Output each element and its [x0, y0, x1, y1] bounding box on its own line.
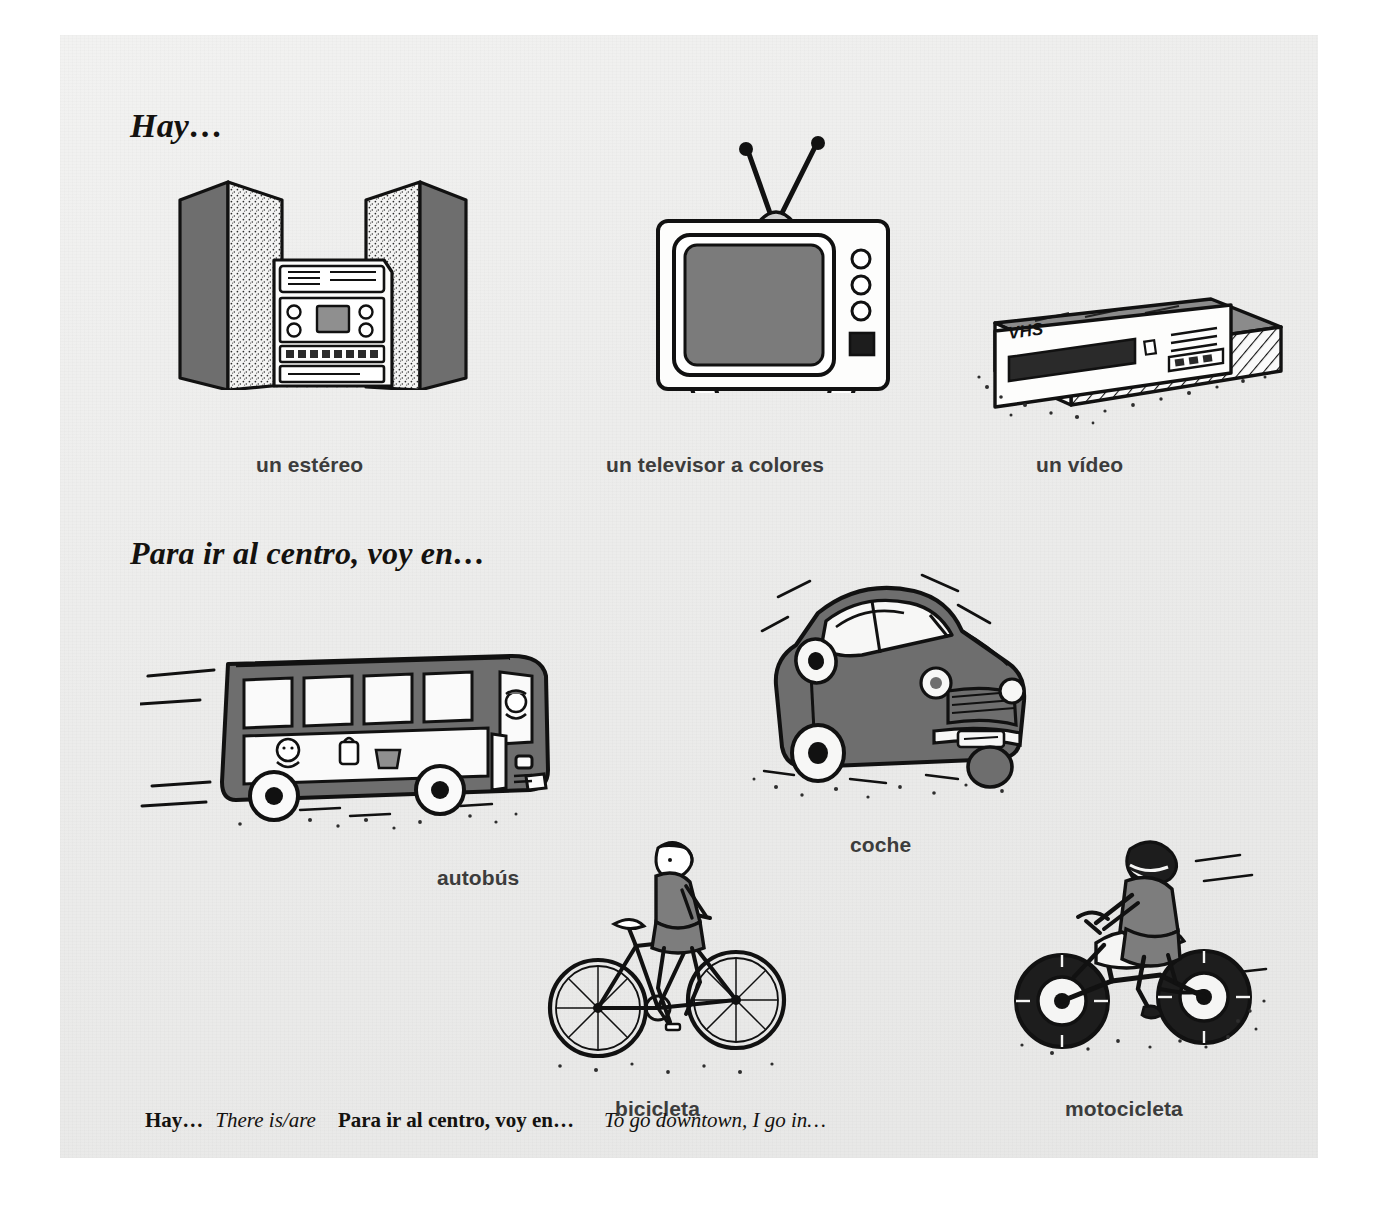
worksheet-page: Hay…	[60, 35, 1318, 1158]
television-illustration	[630, 93, 920, 393]
vcr-illustration: VHS	[965, 265, 1285, 445]
bus-illustration	[140, 610, 610, 840]
caption-un-video: un vídeo	[1036, 453, 1123, 477]
glossary-term-hay: Hay…	[145, 1108, 203, 1132]
car-illustration	[690, 535, 1060, 815]
caption-autobus: autobús	[437, 866, 519, 890]
glossary-term-para-ir: Para ir al centro, voy en…	[338, 1108, 574, 1132]
stereo-system-illustration	[170, 140, 470, 390]
glossary-line: Hay…There is/arePara ir al centro, voy e…	[145, 1108, 826, 1133]
caption-un-estereo: un estéreo	[256, 453, 363, 477]
motorcycle-illustration	[1000, 825, 1270, 1075]
section-heading-transporte: Para ir al centro, voy en…	[130, 535, 485, 572]
glossary-translation-hay: There is/are	[215, 1108, 316, 1132]
caption-un-televisor: un televisor a colores	[606, 453, 824, 477]
caption-motocicleta: motocicleta	[1065, 1097, 1183, 1121]
caption-coche: coche	[850, 833, 911, 857]
bicycle-illustration	[540, 830, 790, 1080]
glossary-translation-para-ir: To go downtown, I go in…	[604, 1108, 826, 1132]
